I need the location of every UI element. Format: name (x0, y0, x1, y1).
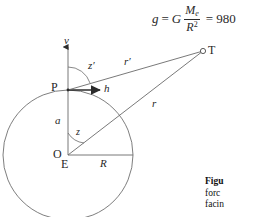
equation-numerator-symbol: M (185, 3, 195, 17)
label-h-vector: h (104, 83, 110, 94)
caption-line-1: Figu (205, 176, 257, 188)
label-a-segment: a (55, 115, 61, 126)
label-point-p: P (51, 81, 58, 93)
geometry-diagram: v z′ P h a z O E R r′ r T (0, 33, 220, 217)
equation-fraction: Me R2 (184, 4, 200, 34)
caption-line-2: forc (205, 188, 257, 200)
label-point-e: E (61, 158, 68, 170)
equation-lhs: g (152, 12, 159, 25)
label-r-prime-mark: ′ (128, 55, 130, 67)
equation-numerator-subscript: e (195, 9, 199, 18)
label-z-prime-mark: ′ (92, 59, 94, 71)
label-v-axis: v (64, 35, 69, 46)
diagram-svg (0, 33, 220, 217)
equation-numerator: Me (184, 4, 200, 18)
figure-caption: Figu forc facin (205, 176, 257, 211)
label-point-t: T (208, 44, 215, 56)
equation-denominator-exponent: 2 (194, 20, 198, 29)
equation-gravitational-constant: G (172, 12, 181, 25)
point-t-marker (200, 48, 205, 53)
equation-value: 980 (216, 12, 236, 25)
equation-equals-first: = (162, 12, 169, 25)
figure-page: g = G Me R2 = 980 (0, 0, 257, 217)
caption-line-3: facin (205, 199, 257, 211)
label-z-prime: z′ (88, 60, 95, 71)
label-z-angle: z (76, 127, 80, 137)
angle-arc-z-prime (68, 67, 90, 83)
gravity-equation: g = G Me R2 = 980 (152, 4, 236, 34)
label-r-line: r (152, 98, 156, 109)
label-r-prime: r′ (124, 56, 131, 67)
point-p-marker (67, 89, 70, 92)
label-radius-R: R (100, 158, 107, 169)
equation-equals-second: = (206, 12, 213, 25)
